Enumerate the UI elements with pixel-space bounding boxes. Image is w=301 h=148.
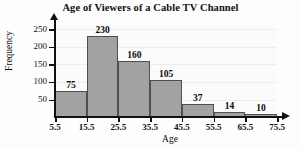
y-axis-line bbox=[54, 19, 56, 117]
bar-value-label: 160 bbox=[114, 50, 154, 60]
y-tick-mark bbox=[49, 47, 55, 49]
x-axis-line bbox=[54, 116, 283, 118]
x-tick-label: 75.5 bbox=[262, 123, 292, 132]
x-tick-label: 25.5 bbox=[103, 123, 133, 132]
bar bbox=[87, 36, 119, 117]
x-axis-arrow-icon bbox=[282, 112, 290, 120]
y-tick-label: 50 bbox=[21, 95, 47, 104]
y-axis-title: Frequency bbox=[4, 19, 14, 83]
bar bbox=[55, 91, 87, 117]
y-tick-label: 250 bbox=[21, 25, 47, 34]
y-tick-mark bbox=[49, 29, 55, 31]
bar-value-label: 230 bbox=[83, 25, 123, 35]
bar-value-label: 75 bbox=[51, 80, 91, 90]
x-tick-label: 65.5 bbox=[230, 123, 260, 132]
x-tick-label: 35.5 bbox=[135, 123, 165, 132]
x-tick-label: 5.5 bbox=[40, 123, 70, 132]
histogram-chart: Age of Viewers of a Cable TV Channel 752… bbox=[0, 0, 301, 148]
chart-title: Age of Viewers of a Cable TV Channel bbox=[0, 2, 301, 14]
bar-value-label: 10 bbox=[241, 103, 281, 113]
y-tick-mark bbox=[49, 82, 55, 84]
bar-value-label: 105 bbox=[146, 69, 186, 79]
y-tick-label: 100 bbox=[21, 77, 47, 86]
y-tick-label: 150 bbox=[21, 60, 47, 69]
x-axis-title: Age bbox=[120, 134, 220, 144]
y-tick-label: 200 bbox=[21, 42, 47, 51]
x-tick-label: 45.5 bbox=[167, 123, 197, 132]
y-tick-mark bbox=[49, 64, 55, 66]
y-axis-arrow-icon bbox=[50, 13, 58, 20]
x-tick-label: 15.5 bbox=[72, 123, 102, 132]
x-tick-label: 55.5 bbox=[199, 123, 229, 132]
y-tick-mark bbox=[49, 100, 55, 102]
